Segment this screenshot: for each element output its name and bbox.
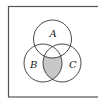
label-a: A	[49, 28, 57, 39]
venn-diagram: A B C	[0, 0, 98, 103]
label-c: C	[69, 59, 77, 70]
label-b: B	[29, 59, 37, 70]
